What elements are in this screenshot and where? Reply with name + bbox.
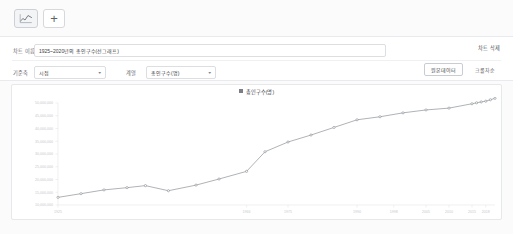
- x-axis-tick-label: 2005: [422, 210, 430, 214]
- y-axis: 10,000,00015,000,00020,000,00025,000,000…: [35, 101, 58, 207]
- series-data-point[interactable]: [264, 151, 266, 153]
- add-chart-button[interactable]: +: [43, 9, 65, 28]
- series-data-point[interactable]: [489, 99, 491, 101]
- x-axis-tick-label: 1975: [284, 210, 292, 214]
- y-axis-tick-label: 15,000,000: [35, 191, 53, 195]
- x-axis-tick-label: 2010: [445, 210, 453, 214]
- panel-actions: 원본데이터 크롤차순: [424, 63, 502, 76]
- series-data-point[interactable]: [144, 185, 146, 187]
- series-data-point[interactable]: [57, 196, 59, 198]
- line-chart-svg: 10,000,00015,000,00020,000,00025,000,000…: [12, 97, 503, 221]
- chart-name-label: 차트 이름: [0, 47, 34, 54]
- tab-strip: +: [0, 0, 513, 36]
- series-data-point[interactable]: [476, 102, 478, 104]
- series-data-point[interactable]: [103, 189, 105, 191]
- series-data-point[interactable]: [167, 190, 169, 192]
- axis-label: 기준축: [0, 69, 34, 76]
- series-data-point[interactable]: [195, 184, 197, 186]
- series-data-point[interactable]: [480, 101, 482, 103]
- chart-name-row: 차트 이름 1925~2020년의 총인구수(선그래프): [0, 39, 513, 61]
- x-axis-tick-label: 1925: [54, 210, 62, 214]
- chevron-down-icon: ▼: [98, 70, 102, 74]
- chart-legend: 총인구수(명): [12, 88, 501, 95]
- series-data-point[interactable]: [425, 109, 427, 111]
- y-axis-tick-label: 40,000,000: [35, 127, 53, 131]
- axis-select-value: 시점: [39, 69, 49, 76]
- x-axis-tick-label: 1966: [243, 210, 251, 214]
- series-data-point[interactable]: [356, 119, 358, 121]
- chart-settings-panel: 차트 이름 1925~2020년의 총인구수(선그래프) 기준축 시점 ▼ 계열…: [0, 36, 513, 81]
- y-axis-tick-label: 30,000,000: [35, 152, 53, 156]
- series-data-point[interactable]: [218, 178, 220, 180]
- series-data-point[interactable]: [310, 134, 312, 136]
- series-data-point[interactable]: [379, 116, 381, 118]
- y-axis-tick-label: 50,000,000: [35, 101, 53, 105]
- chart-name-input[interactable]: 1925~2020년의 총인구수(선그래프): [34, 44, 386, 57]
- y-axis-tick-label: 35,000,000: [35, 140, 53, 144]
- series-markers: [57, 97, 496, 198]
- legend-label: 총인구수(명): [246, 88, 274, 95]
- series-line-total-population: [58, 98, 495, 197]
- series-data-point[interactable]: [287, 141, 289, 143]
- delete-chart-link[interactable]: 차트 삭제: [478, 44, 500, 51]
- chart-editor-app: + 차트 이름 1925~2020년의 총인구수(선그래프) 기준축 시점 ▼ …: [0, 0, 513, 234]
- series-data-point[interactable]: [80, 193, 82, 195]
- source-data-button[interactable]: 원본데이터: [424, 63, 463, 76]
- tab-chart[interactable]: [14, 9, 38, 28]
- line-chart-icon: [19, 13, 33, 24]
- series-data-point[interactable]: [471, 103, 473, 105]
- series-data-point[interactable]: [402, 112, 404, 114]
- series-select[interactable]: 총인구수(명) ▼: [146, 66, 216, 79]
- y-axis-tick-label: 20,000,000: [35, 178, 53, 182]
- series-data-point[interactable]: [246, 170, 248, 172]
- x-axis-tick-label: 1998: [390, 210, 398, 214]
- chart-plot-area: 10,000,00015,000,00020,000,00025,000,000…: [12, 97, 503, 221]
- fullscreen-button[interactable]: 크롤차순: [468, 63, 502, 76]
- axis-select[interactable]: 시점 ▼: [34, 66, 106, 79]
- series-data-point[interactable]: [333, 126, 335, 128]
- chart-card: 총인구수(명) 10,000,00015,000,00020,000,00025…: [11, 84, 502, 220]
- chevron-down-icon: ▼: [208, 70, 212, 74]
- y-axis-tick-label: 25,000,000: [35, 165, 53, 169]
- series-label: 계열: [120, 69, 146, 76]
- series-select-value: 총인구수(명): [151, 69, 179, 76]
- series-data-point[interactable]: [485, 100, 487, 102]
- y-axis-tick-label: 45,000,000: [35, 114, 53, 118]
- x-axis-tick-label: 2018: [482, 210, 490, 214]
- x-axis: 192519661975199019982005201020152018: [54, 205, 495, 214]
- series-data-point[interactable]: [494, 97, 496, 99]
- series-data-point[interactable]: [126, 187, 128, 189]
- legend-swatch-icon: [239, 89, 243, 93]
- series-data-point[interactable]: [448, 107, 450, 109]
- plus-icon: +: [50, 12, 58, 25]
- x-axis-tick-label: 2015: [468, 210, 476, 214]
- x-axis-tick-label: 1990: [353, 210, 361, 214]
- y-axis-tick-label: 10,000,000: [35, 203, 53, 207]
